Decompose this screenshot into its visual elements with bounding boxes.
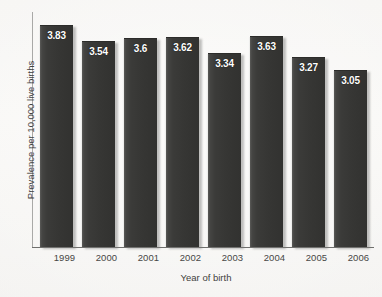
x-axis-tick-label: 2005 xyxy=(296,252,338,263)
bar-slot: 3.05 xyxy=(334,71,367,247)
bar-group: 3.83 3.54 3.6 3.62 3.34 xyxy=(40,12,380,248)
x-axis-tick-label: 2002 xyxy=(170,252,212,263)
x-axis-tick-label: 2004 xyxy=(254,252,296,263)
bar-value-label: 3.63 xyxy=(250,41,283,52)
bar[interactable]: 3.27 xyxy=(292,57,325,247)
plot-area: 3.83 3.54 3.6 3.62 3.34 xyxy=(32,12,380,248)
bar-value-label: 3.62 xyxy=(166,42,199,53)
bar-slot: 3.27 xyxy=(292,58,325,247)
bar-value-label: 3.34 xyxy=(208,58,241,69)
bar-slot: 3.63 xyxy=(250,37,283,247)
x-axis-tick-label: 1999 xyxy=(44,252,86,263)
x-axis-title: Year of birth xyxy=(32,272,380,283)
bar-value-label: 3.54 xyxy=(82,46,115,57)
bar[interactable]: 3.63 xyxy=(250,36,283,247)
bar[interactable]: 3.6 xyxy=(124,38,157,247)
bar-slot: 3.54 xyxy=(82,42,115,247)
bar[interactable]: 3.34 xyxy=(208,53,241,247)
bar[interactable]: 3.62 xyxy=(166,37,199,247)
bar-slot: 3.34 xyxy=(208,54,241,247)
x-axis-tick-label: 2000 xyxy=(86,252,128,263)
bar-slot: 3.62 xyxy=(166,38,199,247)
chart-figure: 3.83 3.54 3.6 3.62 3.34 xyxy=(0,0,382,297)
bar[interactable]: 3.05 xyxy=(334,70,367,247)
bar-value-label: 3.27 xyxy=(292,62,325,73)
x-axis-tick-labels: 1999 2000 2001 2002 2003 2004 2005 2006 xyxy=(40,252,380,266)
bar-slot: 3.6 xyxy=(124,39,157,247)
x-axis-tick-label: 2001 xyxy=(128,252,170,263)
x-axis-tick-label: 2003 xyxy=(212,252,254,263)
bar-value-label: 3.6 xyxy=(124,43,157,54)
y-axis-title: Prevalence per 10,000 live births xyxy=(25,12,47,248)
bar[interactable]: 3.54 xyxy=(82,41,115,247)
x-axis-tick-label: 2006 xyxy=(338,252,380,263)
bar-value-label: 3.05 xyxy=(334,75,367,86)
